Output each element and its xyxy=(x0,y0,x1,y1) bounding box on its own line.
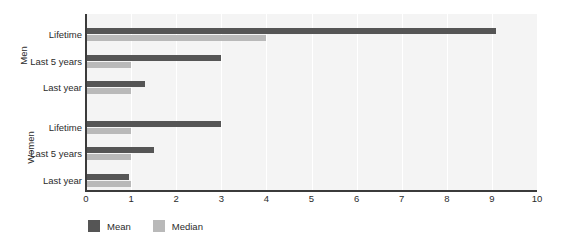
x-tick-label-10: 10 xyxy=(532,193,543,204)
x-tick-label-3: 3 xyxy=(219,193,224,204)
legend: MeanMedian xyxy=(88,220,203,232)
bar-women-last-5-years-mean xyxy=(86,147,154,153)
gridline-9 xyxy=(492,14,493,190)
bar-men-last-5-years-mean xyxy=(86,55,221,61)
x-tick-label-8: 8 xyxy=(444,193,449,204)
x-tick-label-7: 7 xyxy=(399,193,404,204)
bar-women-lifetime-median xyxy=(86,128,131,134)
legend-swatch-median xyxy=(153,220,165,232)
gridline-4 xyxy=(266,14,267,190)
y-axis-line xyxy=(85,14,87,190)
x-tick-label-5: 5 xyxy=(309,193,314,204)
x-tick-label-9: 9 xyxy=(489,193,494,204)
legend-item-mean[interactable]: Mean xyxy=(88,220,131,232)
bar-chart: LifetimeLast 5 yearsLast yearLifetimeLas… xyxy=(0,0,563,243)
bar-men-lifetime-mean xyxy=(86,28,496,34)
x-tick-label-0: 0 xyxy=(83,193,88,204)
bar-men-last-year-median xyxy=(86,88,131,94)
x-tick-label-1: 1 xyxy=(128,193,133,204)
legend-item-median[interactable]: Median xyxy=(153,220,203,232)
x-tick-label-2: 2 xyxy=(174,193,179,204)
group-label-text-women: Women xyxy=(25,131,36,164)
group-label-text-men: Men xyxy=(18,46,29,64)
gridline-5 xyxy=(312,14,313,190)
bar-women-lifetime-mean xyxy=(86,121,221,127)
gridline-6 xyxy=(357,14,358,190)
x-axis-tick-labels: 012345678910 xyxy=(86,193,537,209)
legend-label-median: Median xyxy=(172,221,203,232)
category-label-men-last-year: Last year xyxy=(8,82,82,93)
bar-women-last-year-mean xyxy=(86,174,129,180)
gridline-8 xyxy=(447,14,448,190)
legend-label-mean: Mean xyxy=(107,221,131,232)
gridline-10 xyxy=(537,14,538,190)
legend-swatch-mean xyxy=(88,220,100,232)
gridline-7 xyxy=(402,14,403,190)
category-label-women-lifetime: Lifetime xyxy=(8,122,82,133)
bar-men-lifetime-median xyxy=(86,35,266,41)
bar-women-last-year-median xyxy=(86,181,131,187)
plot-area xyxy=(86,14,537,190)
x-tick-label-6: 6 xyxy=(354,193,359,204)
x-axis-line xyxy=(85,190,537,192)
group-label-men: Men xyxy=(14,50,32,61)
group-label-women: Women xyxy=(14,142,32,153)
bar-women-last-5-years-median xyxy=(86,154,131,160)
bar-men-last-year-mean xyxy=(86,81,145,87)
category-label-men-lifetime: Lifetime xyxy=(8,29,82,40)
category-label-women-last-year: Last year xyxy=(8,175,82,186)
x-tick-label-4: 4 xyxy=(264,193,269,204)
bar-men-last-5-years-median xyxy=(86,62,131,68)
category-labels: LifetimeLast 5 yearsLast yearLifetimeLas… xyxy=(4,14,82,190)
